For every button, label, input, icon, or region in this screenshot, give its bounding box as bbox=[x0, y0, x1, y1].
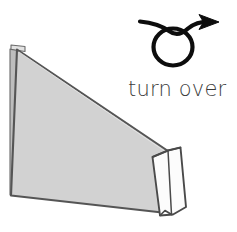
folded-paper-body bbox=[11, 50, 171, 214]
turn-over-instruction-label: turn over bbox=[128, 76, 236, 102]
origami-figure bbox=[0, 0, 237, 232]
turn-over-symbol-group bbox=[140, 15, 219, 66]
folded-paper-group bbox=[10, 45, 171, 214]
origami-diagram-canvas: turn over bbox=[0, 0, 237, 232]
